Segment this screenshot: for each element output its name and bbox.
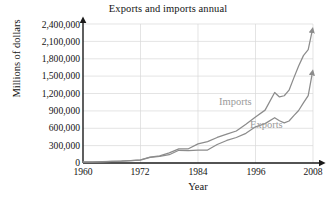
series-polyline-exports [83, 74, 312, 162]
series-polyline-imports [83, 32, 312, 162]
plot-area [0, 0, 336, 203]
series-label-exports: Exports [250, 119, 283, 130]
chart-figure: Exports and imports annual Millions of d… [0, 0, 336, 203]
series-label-imports: Imports [219, 96, 252, 107]
axis-lines [83, 22, 320, 163]
